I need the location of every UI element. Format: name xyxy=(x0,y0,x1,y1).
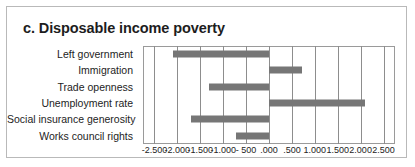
category-label: Works council rights xyxy=(7,128,137,144)
bar[interactable] xyxy=(173,51,269,58)
chart-title: c. Disposable income poverty xyxy=(23,20,225,36)
bar-row xyxy=(143,95,395,111)
x-tick-label: -2.500 xyxy=(142,145,168,155)
category-label: Social insurance generosity xyxy=(7,111,137,127)
figure-frame: c. Disposable income poverty Left govern… xyxy=(6,6,407,158)
bar[interactable] xyxy=(269,100,365,107)
bar[interactable] xyxy=(236,132,269,139)
x-tick-label: - 500 xyxy=(236,145,257,155)
x-axis-tick-labels: -2.500-2.000-1.500-1.000- 500.000.5001.0… xyxy=(143,145,395,159)
chart-screenshot: c. Disposable income poverty Left govern… xyxy=(0,0,415,167)
x-tick-label: -1.000 xyxy=(210,145,236,155)
bar[interactable] xyxy=(269,67,302,74)
plot-wrapper xyxy=(143,46,395,144)
bar[interactable] xyxy=(209,83,269,90)
x-tick-label: .000 xyxy=(260,145,278,155)
category-label: Trade openness xyxy=(7,79,137,95)
bar-row xyxy=(143,62,395,78)
bar-row xyxy=(143,128,395,144)
bar-rows xyxy=(143,46,395,144)
x-tick-label: -2.000 xyxy=(165,145,191,155)
x-tick-label: 1.500 xyxy=(326,145,349,155)
category-label: Immigration xyxy=(7,62,137,78)
category-label: Unemployment rate xyxy=(7,95,137,111)
x-tick-label: 2.500 xyxy=(372,145,395,155)
x-tick-label: 2.000 xyxy=(349,145,372,155)
bar-row xyxy=(143,46,395,62)
bar-row xyxy=(143,111,395,127)
x-tick-label: 1.000 xyxy=(304,145,327,155)
category-label: Left government xyxy=(7,46,137,62)
category-axis-labels: Left governmentImmigrationTrade openness… xyxy=(7,46,137,144)
x-tick-label: .500 xyxy=(283,145,301,155)
bar-row xyxy=(143,79,395,95)
bar[interactable] xyxy=(191,116,269,123)
x-tick-label: -1.500 xyxy=(188,145,214,155)
